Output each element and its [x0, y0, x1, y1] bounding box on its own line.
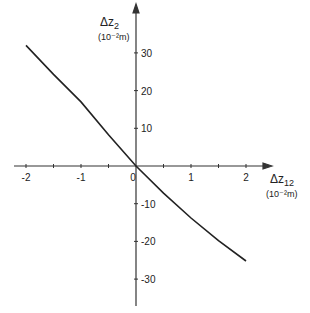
y-tick-label: 10 [141, 123, 153, 134]
x-tick-label: 1 [188, 172, 194, 183]
x-axis-label: Δz12 [270, 172, 294, 188]
y-axis-unit: (10⁻²m) [98, 32, 130, 42]
y-axis-arrow-icon [133, 4, 139, 13]
axis-titles: Δz2(10⁻²m)Δz12(10⁻²m) [98, 15, 298, 199]
y-tick-label: -20 [141, 236, 156, 247]
x-axis-arrow-icon [263, 163, 272, 169]
x-axis-unit: (10⁻²m) [266, 189, 298, 199]
y-axis-label: Δz2 [100, 15, 119, 31]
x-tick-label: 2 [243, 172, 249, 183]
y-tick-label: 20 [141, 86, 153, 97]
x-tick-label: -1 [77, 172, 86, 183]
chart: -2-1012302010-10-20-30 Δz2(10⁻²m)Δz12(10… [0, 0, 310, 313]
y-tick-label: -10 [141, 199, 156, 210]
x-tick-label: -2 [22, 172, 31, 183]
y-tick-label: -30 [141, 274, 156, 285]
y-tick-label: 30 [141, 48, 153, 59]
x-tick-label: 0 [130, 172, 136, 183]
